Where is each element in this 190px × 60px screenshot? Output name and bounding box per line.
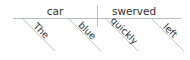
sentence-diagram-svg: car swerved The blue quickly left — [0, 0, 190, 60]
sentence-diagram-canvas: car swerved The blue quickly left — [0, 0, 190, 60]
predicate-word: swerved — [112, 5, 156, 17]
modifier-word-blue: blue — [76, 19, 98, 41]
modifier-word-quickly: quickly — [109, 15, 141, 47]
modifier-word-the: The — [31, 20, 52, 41]
modifier-word-left: left — [161, 21, 180, 40]
subject-word: car — [47, 5, 64, 17]
